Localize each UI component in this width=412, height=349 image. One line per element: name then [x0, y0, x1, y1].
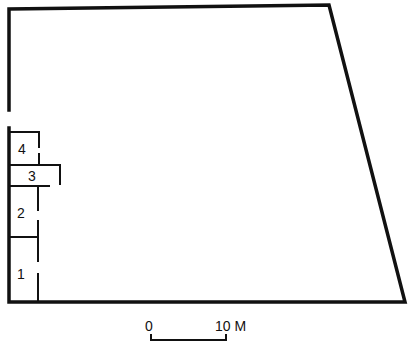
room-label-3: 3: [28, 169, 36, 183]
site-plan-drawing: [0, 0, 412, 349]
room-label-4: 4: [18, 142, 26, 156]
outer-enclosure-wall: [9, 5, 405, 302]
room-label-2: 2: [17, 206, 25, 220]
scale-bar: [151, 334, 226, 340]
scale-end-label: 10 M: [215, 319, 246, 333]
scale-start-label: 0: [145, 319, 153, 333]
room-label-1: 1: [17, 267, 25, 281]
